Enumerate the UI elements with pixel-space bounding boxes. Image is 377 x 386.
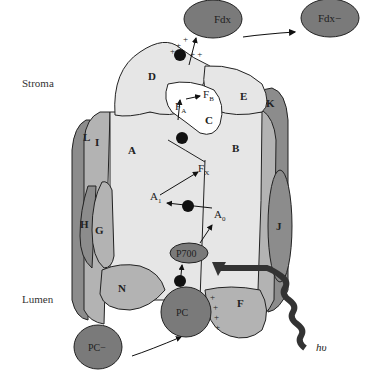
label-fdx: Fdx bbox=[214, 13, 232, 25]
electron-icon bbox=[182, 200, 194, 212]
label-H: H bbox=[80, 218, 89, 230]
label-D: D bbox=[148, 70, 156, 82]
svg-text:+: + bbox=[170, 46, 175, 56]
svg-text:+: + bbox=[214, 312, 219, 322]
lumen-label: Lumen bbox=[22, 293, 54, 305]
svg-text:+: + bbox=[210, 292, 215, 302]
label-F: F bbox=[237, 297, 244, 309]
svg-text:+: + bbox=[215, 322, 220, 332]
label-p700: P700 bbox=[176, 248, 197, 259]
label-J: J bbox=[276, 220, 282, 232]
label-A: A bbox=[128, 144, 136, 156]
label-E: E bbox=[240, 90, 247, 102]
label-light: hυ bbox=[316, 341, 327, 353]
electron-icon bbox=[176, 132, 188, 144]
label-pc: PC bbox=[176, 307, 189, 318]
label-L: L bbox=[83, 131, 90, 143]
label-N: N bbox=[118, 282, 126, 294]
electron-icon bbox=[174, 275, 186, 287]
label-B: B bbox=[232, 142, 240, 154]
label-C: C bbox=[205, 114, 213, 126]
label-pc-reduced: PC− bbox=[88, 342, 106, 353]
svg-text:+: + bbox=[213, 302, 218, 312]
photosystem-diagram: Stroma Lumen A B C D E F G H I J K L N P… bbox=[0, 0, 377, 386]
label-I: I bbox=[95, 136, 99, 148]
label-K: K bbox=[266, 97, 275, 109]
stroma-label: Stroma bbox=[22, 77, 54, 89]
svg-text:+: + bbox=[183, 34, 188, 44]
label-fdx-reduced: Fdx− bbox=[318, 12, 341, 24]
electron-icon bbox=[174, 49, 186, 61]
fdx-carrier bbox=[184, 0, 242, 38]
label-G: G bbox=[95, 224, 104, 236]
svg-text:+: + bbox=[176, 40, 181, 50]
svg-text:+ +: + + bbox=[190, 49, 202, 59]
